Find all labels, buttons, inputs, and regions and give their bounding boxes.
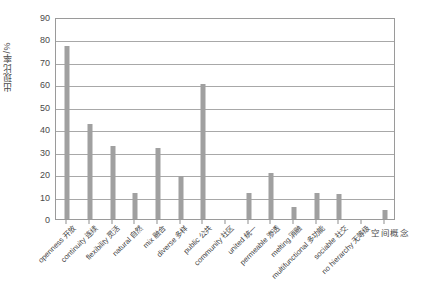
bar-series [56, 19, 394, 219]
y-axis-tick-label: 50 [18, 103, 50, 112]
bar [269, 173, 274, 219]
bar [337, 194, 342, 219]
bar [133, 193, 138, 219]
y-axis-title: 出现比率/% [2, 42, 18, 92]
bar-slot [147, 19, 170, 219]
plot-area [55, 18, 395, 220]
x-axis-title: 空间概念 [371, 228, 409, 238]
bar [155, 148, 160, 219]
bar-slot [169, 19, 192, 219]
bar-slot [124, 19, 147, 219]
bar-slot [192, 19, 215, 219]
y-axis-tick-label: 80 [18, 36, 50, 45]
bar [314, 193, 319, 219]
bar-chart: 出现比率/% 9080706050403020100 openness 开放co… [0, 0, 435, 301]
bar [110, 146, 115, 219]
bar-slot [373, 19, 396, 219]
y-axis-tick-label: 60 [18, 81, 50, 90]
bar-slot [56, 19, 79, 219]
bar-slot [101, 19, 124, 219]
bar [65, 46, 70, 219]
bar [291, 207, 296, 219]
bar [246, 193, 251, 219]
y-axis-tick-label: 90 [18, 14, 50, 23]
bar-slot [260, 19, 283, 219]
bar-slot [328, 19, 351, 219]
x-axis-category-labels: openness 开放continuity 连续flexibility 灵活na… [0, 224, 435, 301]
bar-slot [305, 19, 328, 219]
bar [201, 84, 206, 219]
bar-slot [237, 19, 260, 219]
bar-slot [215, 19, 238, 219]
y-axis-tick-label: 20 [18, 171, 50, 180]
bar-slot [283, 19, 306, 219]
bar [178, 176, 183, 219]
bar-slot [79, 19, 102, 219]
y-axis-tick-label: 70 [18, 58, 50, 67]
bar [382, 210, 387, 219]
bar [87, 124, 92, 219]
bar-slot [351, 19, 374, 219]
y-axis-tick-label: 40 [18, 126, 50, 135]
y-axis-tick-label: 10 [18, 193, 50, 202]
y-axis-tick-label: 30 [18, 148, 50, 157]
